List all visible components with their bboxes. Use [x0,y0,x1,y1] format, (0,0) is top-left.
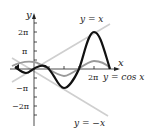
label-y-equals-neg-x: y = −x [73,118,105,128]
tick-label-neg-pi: −π [16,84,28,93]
tick-label-pi: π [22,47,27,56]
chart-canvas: y x 2π π −π −2π 2π y = x y = cos x y = −… [0,0,156,130]
y-axis-label: y [25,9,32,20]
tick-label-neg-2pi: −2π [12,102,29,111]
y-axis-arrow-icon [32,13,36,19]
x-axis-label: x [118,57,124,68]
label-y-equals-cos-x: y = cos x [102,72,144,82]
tick-label-2pi: 2π [18,28,28,37]
label-y-equals-x: y = x [79,14,103,24]
tick-label-x-2pi: 2π [88,73,98,82]
